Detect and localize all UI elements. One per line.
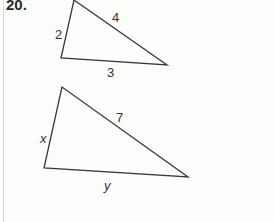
large-triangle: x 7 y [39,87,188,193]
large-side-hypotenuse-label: 7 [116,110,123,125]
large-side-bottom-label: y [103,178,112,193]
large-side-left-label: x [39,131,47,146]
small-side-bottom-label: 3 [107,65,114,80]
small-side-hypotenuse-label: 4 [112,10,119,25]
large-triangle-outline [44,87,188,177]
small-side-left-label: 2 [55,27,62,42]
small-triangle: 2 4 3 [55,0,167,80]
similar-triangles-figure: 2 4 3 x 7 y [0,0,274,222]
